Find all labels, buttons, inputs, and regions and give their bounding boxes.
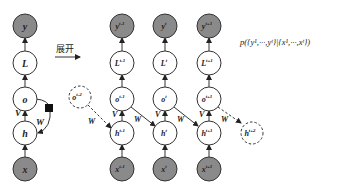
node-o [110,87,134,111]
edge-label-W: W [221,115,229,124]
edge-label-W-prev: W [88,117,96,126]
node-h [110,121,134,145]
node-L [110,51,134,75]
node-x [110,157,134,181]
node-o [197,87,221,111]
column-t-plus-1: V yt+1 Lt+1 ot+1 ht+1 xt+1 [197,14,221,181]
column-t: V yt Lt ot ht xt [153,14,177,181]
edge-label-V: V [155,110,161,119]
unrolled-rnn: ot-2 W V yt-1 Lt-1 ot-1 ht-1 xt-1 W [69,14,263,181]
node-y [197,14,221,38]
node-y [110,14,134,38]
probability-formula: p({y¹,···,yᵗ}|{x¹,···,xᵗ}) [239,37,310,47]
node-x [197,157,221,181]
edge-label-W: W [177,115,185,124]
column-t-minus-1: V yt-1 Lt-1 ot-1 ht-1 xt-1 [110,14,134,181]
edge-label-V: V [199,110,205,119]
edge-label-W: W [134,115,142,124]
node-L-label: L [21,58,28,69]
rnn-diagram: V W y L o h x 展开 ot-2 W V yt-1 [0,0,337,192]
delay-marker-icon [45,104,53,112]
edge-label-W: W [36,117,45,127]
node-y-label: y [22,21,28,32]
node-x-label: x [22,164,28,175]
unfold-arrow: 展开 [55,44,80,57]
folded-rnn: V W y L o h x [13,14,53,181]
edge-label-V: V [112,110,118,119]
unfold-label: 展开 [56,44,74,54]
node-o-label: o [23,94,28,105]
node-h-label: h [22,128,28,139]
